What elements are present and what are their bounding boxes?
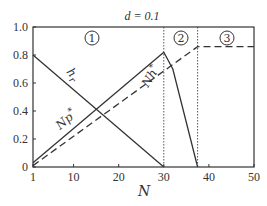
svg-text:Np*: Np* [51,105,80,133]
svg-text:Nh*: Nh* [136,61,162,90]
y-tick-label: 0.8 [13,48,28,62]
y-tick-label: 0.2 [13,132,28,146]
y-tick-label: 0 [22,160,28,174]
region-3-label: 3 [220,31,234,45]
np-star-label: Np* [51,105,80,133]
svg-text:3: 3 [224,32,231,45]
series-dashed [33,47,254,166]
x-tick-label: 1 [30,170,36,184]
x-tick-label: 50 [248,170,260,184]
x-axis-label: N [137,183,151,199]
chart-title: d = 0.1 [124,9,159,23]
series-np [33,52,164,163]
region-1-label: 1 [85,31,99,45]
nh-star-label: Nh* [136,61,162,90]
y-tick-label: 1.0 [13,20,28,34]
y-tick-label: 0.4 [13,104,28,118]
x-tick-label: 30 [158,170,170,184]
svg-text:1: 1 [89,32,96,45]
x-tick-label: 10 [68,170,80,184]
svg-text:2: 2 [178,32,185,45]
y-tick-label: 0.6 [13,76,28,90]
series-nh [164,52,198,167]
chart: 00.20.40.60.81.0 11020304050 d = 0.1 N 1… [0,0,267,206]
x-tick-label: 40 [203,170,215,184]
plot-frame [33,27,254,167]
region-2-label: 2 [174,31,188,45]
x-tick-label: 20 [113,170,125,184]
